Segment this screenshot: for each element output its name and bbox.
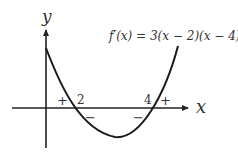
y-axis-label: y [41, 6, 52, 26]
derivative-curve [46, 46, 178, 137]
derivative-plot: y x f′(x) = 3(x − 2)(x − 4) 2 4 + − − + [0, 0, 238, 152]
sign-minus-left: − [85, 110, 96, 125]
sign-minus-right: − [133, 110, 144, 125]
sign-plus-left: + [57, 93, 68, 108]
root-label-2: 2 [77, 93, 85, 107]
x-axis-label: x [196, 96, 206, 117]
function-label: f′(x) = 3(x − 2)(x − 4) [108, 29, 238, 43]
sign-plus-right: + [160, 93, 171, 108]
root-label-4: 4 [144, 93, 152, 107]
